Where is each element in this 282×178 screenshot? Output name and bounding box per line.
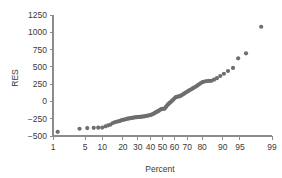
data-point xyxy=(236,56,240,60)
data-point xyxy=(92,126,96,130)
x-tick-label: 95 xyxy=(235,142,245,152)
y-tick-label: 0 xyxy=(42,96,47,106)
data-point xyxy=(231,66,235,70)
x-axis-title: Percent xyxy=(145,164,175,174)
x-tick-label: 90 xyxy=(218,142,228,152)
data-point xyxy=(222,72,226,76)
data-point xyxy=(218,74,222,78)
data-point xyxy=(96,126,100,130)
y-tick-label: −500 xyxy=(28,131,47,141)
x-tick-label: 30 xyxy=(133,142,143,152)
x-tick-label: 50 xyxy=(158,142,168,152)
normal-probability-plot-page: −500−250025050075010001250 1510203040506… xyxy=(0,0,282,178)
x-tick-label: 1 xyxy=(51,142,56,152)
chart-canvas: −500−250025050075010001250 1510203040506… xyxy=(0,0,282,178)
x-tick-label: 20 xyxy=(118,142,128,152)
x-tick-label: 70 xyxy=(182,142,192,152)
data-point xyxy=(259,25,263,29)
data-point xyxy=(226,69,230,73)
x-tick-label: 5 xyxy=(83,142,88,152)
y-tick-label: 750 xyxy=(33,45,47,55)
x-tick-label: 99 xyxy=(267,142,277,152)
data-point xyxy=(77,127,81,131)
x-tick-label: 80 xyxy=(197,142,207,152)
y-tick-label: 1000 xyxy=(28,27,47,37)
data-point xyxy=(85,126,89,130)
x-tick-label: 40 xyxy=(146,142,156,152)
y-tick-label: 1250 xyxy=(28,10,47,20)
y-tick-label: −250 xyxy=(28,114,47,124)
y-tick-label: 250 xyxy=(33,79,47,89)
x-tick-label: 10 xyxy=(97,142,107,152)
x-tick-label: 60 xyxy=(170,142,180,152)
y-tick-label: 500 xyxy=(33,62,47,72)
data-point xyxy=(56,130,60,134)
y-axis-title: RES xyxy=(10,69,20,87)
data-point xyxy=(244,51,248,55)
